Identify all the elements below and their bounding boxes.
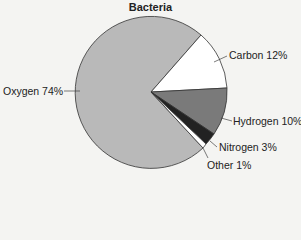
label-hydrogen: Hydrogen 10% (233, 115, 301, 127)
label-carbon: Carbon 12% (229, 49, 287, 61)
label-nitrogen: Nitrogen 3% (219, 141, 277, 153)
label-oxygen: Oxygen 74% (3, 85, 63, 97)
label-other: Other 1% (207, 159, 251, 171)
